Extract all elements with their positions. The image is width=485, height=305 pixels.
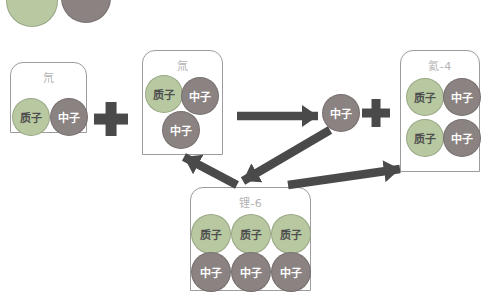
- neutron-circle: 中子: [231, 252, 271, 292]
- neutron-to-lithium-arrow: [243, 130, 330, 181]
- free-neutron-circle: 中子: [322, 94, 360, 132]
- proton-circle: 质子: [231, 214, 271, 254]
- lithium-to-helium-arrow: [288, 169, 400, 185]
- lithium-to-tritium-arrow: [184, 157, 237, 185]
- neutron-circle: 中子: [443, 78, 481, 116]
- tritium-box: 氚 质子 中子 中子: [142, 50, 223, 155]
- neutron-circle: 中子: [162, 111, 200, 149]
- proton-circle: 质子: [406, 119, 444, 157]
- neutron-circle: 中子: [271, 252, 311, 292]
- helium4-box: 氦-4 质子 中子 质子 中子: [400, 50, 480, 172]
- fusion-reaction-diagram: 氘 质子 中子 氚 质子 中子 中子 中子 氦-4 质子 中子 质子 中子 锂-…: [0, 0, 485, 305]
- proton-circle: 质子: [406, 78, 444, 116]
- lithium6-label: 锂-6: [191, 194, 310, 210]
- deuterium-label: 氘: [11, 69, 86, 85]
- tritium-label: 氚: [143, 57, 222, 73]
- helium4-label: 氦-4: [401, 57, 479, 73]
- proton-circle: 质子: [145, 75, 183, 113]
- plus-icon: [94, 102, 128, 136]
- legend-neutron-circle: [61, 0, 111, 23]
- plus-icon: [362, 99, 390, 127]
- proton-circle: 质子: [271, 214, 311, 254]
- neutron-circle: 中子: [191, 252, 231, 292]
- neutron-circle: 中子: [50, 98, 88, 136]
- lithium6-box: 锂-6 质子 质子 质子 中子 中子 中子: [190, 187, 311, 291]
- proton-circle: 质子: [12, 98, 50, 136]
- neutron-circle: 中子: [443, 119, 481, 157]
- legend-proton-circle: [6, 0, 58, 27]
- neutron-circle: 中子: [181, 77, 219, 115]
- deuterium-box: 氘 质子 中子: [10, 62, 87, 133]
- proton-circle: 质子: [191, 214, 231, 254]
